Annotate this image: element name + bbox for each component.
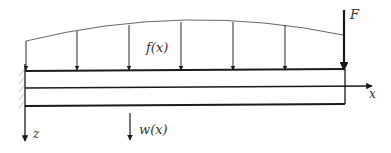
beam bbox=[25, 69, 372, 106]
label-f-of-x: f(x) bbox=[145, 40, 168, 55]
x-axis bbox=[25, 86, 372, 88]
label-F: F bbox=[349, 7, 360, 22]
fixed-support-hatch bbox=[19, 70, 24, 108]
beam-diagram: f(x) F x z w(x) bbox=[0, 0, 391, 153]
label-x: x bbox=[369, 87, 376, 101]
distributed-load-curve bbox=[26, 20, 343, 41]
label-z: z bbox=[32, 127, 40, 141]
label-w-of-x: w(x) bbox=[139, 122, 168, 137]
